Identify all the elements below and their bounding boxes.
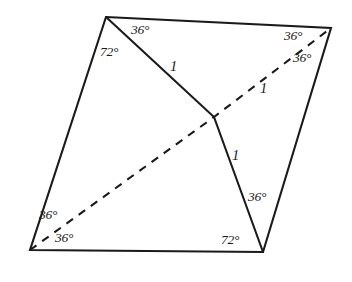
angle-label-bottom-right-base-72: 72°	[221, 233, 239, 247]
length-label-upper-solid-segment: 1	[170, 59, 177, 74]
angle-label-top-left-inner-36: 36°	[131, 23, 149, 37]
parallelogram-outline	[30, 17, 331, 252]
solid-zigzag-path	[106, 17, 263, 252]
angle-label-top-right-upper-36: 36°	[284, 29, 302, 43]
angle-label-top-right-lower-36: 36°	[293, 51, 311, 65]
geometry-figure: 36° 72° 36° 36° 36° 36° 36° 72° 1 1 1	[0, 0, 352, 282]
length-label-lower-solid-segment: 1	[232, 148, 239, 163]
angle-label-bottom-left-lower-36: 36°	[55, 231, 73, 245]
length-label-dashed-upper-segment: 1	[260, 81, 267, 96]
dashed-diagonal	[30, 28, 331, 250]
angle-label-bottom-right-wedge-36: 36°	[248, 190, 266, 204]
angle-label-bottom-left-upper-36: 36°	[39, 208, 57, 222]
angle-label-top-left-outer-72: 72°	[100, 45, 118, 59]
